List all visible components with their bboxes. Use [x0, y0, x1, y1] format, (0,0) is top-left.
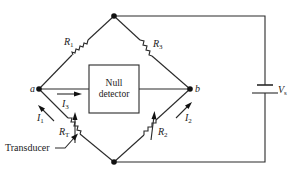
node-b-label: b [195, 83, 200, 94]
current-i3-label: I3 [61, 98, 69, 111]
node-top [111, 13, 117, 19]
r3-label: R3 [152, 38, 163, 51]
current-i2-label: I2 [184, 112, 192, 125]
node-a [36, 86, 42, 92]
source-voltage-label: Vs [278, 84, 287, 97]
resistor-r3 [114, 16, 190, 89]
null-detector-label-line2: detector [99, 89, 130, 99]
current-i3-arrow-icon [57, 92, 82, 97]
resistor-r2 [114, 89, 190, 162]
battery-icon [252, 84, 278, 96]
node-b [187, 86, 193, 92]
node-a-label: a [30, 83, 35, 94]
transducer-label: Transducer [5, 142, 50, 153]
null-detector-label-line1: Null [106, 78, 123, 88]
wheatstone-bridge-diagram: Vs R1 R3 RT R2 Null detec [0, 0, 296, 173]
r2-label: R2 [157, 126, 168, 139]
node-bottom [111, 159, 117, 165]
rt-label: RT [58, 126, 70, 139]
r1-label: R1 [63, 36, 74, 49]
resistor-r1 [39, 16, 114, 89]
resistor-rt [39, 89, 114, 162]
current-i2-arrow-icon [176, 102, 192, 118]
current-i1-label: I1 [36, 112, 44, 125]
